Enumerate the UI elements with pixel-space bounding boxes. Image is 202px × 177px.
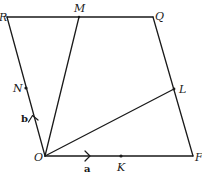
vector-b-arrow-icon [29, 116, 39, 123]
label-q: Q [155, 10, 164, 23]
label-l: L [178, 83, 186, 96]
label-r: R [0, 11, 7, 24]
edge-om [45, 17, 79, 156]
label-f: F [194, 151, 202, 164]
point-k-dot [119, 154, 122, 157]
label-vector-b: b [21, 113, 28, 124]
edge-ol [45, 89, 174, 156]
point-l-dot [173, 88, 176, 91]
label-vector-a: a [84, 163, 91, 174]
label-o: O [34, 151, 43, 164]
edge-qf [153, 17, 193, 156]
label-n: N [12, 82, 23, 95]
label-m: M [73, 2, 86, 15]
point-n-dot [24, 86, 27, 89]
geometry-diagram: R M Q L F O N K a b [0, 0, 202, 177]
point-m-dot [78, 16, 80, 18]
label-k: K [116, 161, 126, 174]
